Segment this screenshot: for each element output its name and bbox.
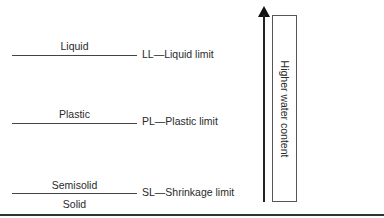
plastic-limit-label: PL—Plastic limit bbox=[142, 115, 218, 127]
water-content-arrow bbox=[263, 14, 265, 202]
shrinkage-limit-line bbox=[12, 193, 137, 194]
state-semisolid: Semisolid bbox=[12, 179, 137, 191]
liquid-limit-label: LL—Liquid limit bbox=[142, 48, 214, 60]
water-content-label: Higher water content bbox=[279, 60, 291, 157]
liquid-limit-line bbox=[12, 55, 137, 56]
plastic-limit-line bbox=[12, 123, 137, 124]
shrinkage-limit-label: SL—Shrinkage limit bbox=[142, 186, 234, 198]
water-content-box: Higher water content bbox=[272, 15, 297, 202]
state-plastic: Plastic bbox=[12, 108, 137, 120]
bottom-divider bbox=[0, 214, 384, 216]
state-liquid: Liquid bbox=[12, 40, 137, 52]
state-solid: Solid bbox=[12, 198, 137, 210]
